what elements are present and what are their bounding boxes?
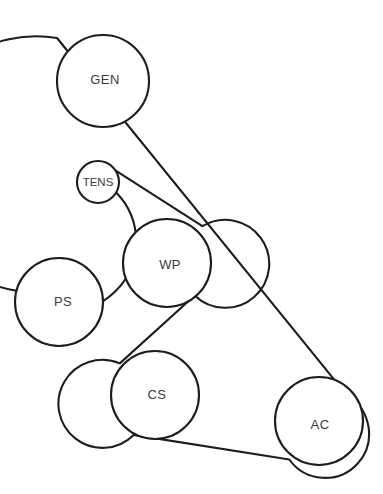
pulley-label-cs: CS	[148, 387, 167, 402]
belt-routing-diagram: GEN TENS PS WP CS AC	[0, 0, 383, 494]
pulley-label-wp: WP	[159, 257, 181, 272]
pulley-label-gen: GEN	[90, 72, 119, 87]
pulley-label-ac: AC	[311, 417, 330, 432]
pulley-label-tens: TENS	[83, 176, 114, 188]
pulley-label-ps: PS	[54, 294, 72, 309]
